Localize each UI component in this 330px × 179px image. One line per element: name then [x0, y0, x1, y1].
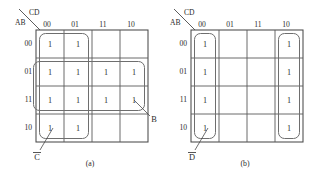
corner-label-cd: CD: [29, 8, 40, 17]
figure-caption-b: (b): [240, 159, 249, 168]
cell-r0c1: 1: [76, 40, 80, 49]
group-label-b: B: [151, 115, 157, 124]
kmap-a-canvas: CD AB 00 01 11 10 00 01 11 10 1 1 1 1 1 …: [0, 0, 165, 179]
column-header-0: 00: [43, 20, 51, 29]
column-header-1: 01: [71, 20, 79, 29]
cell-r1c2: 1: [104, 68, 108, 77]
cell-r1c1: 1: [76, 68, 80, 77]
row-header-2: 11: [25, 95, 33, 104]
row-header-1: 01: [179, 67, 187, 76]
cell-r3c3: 1: [287, 124, 291, 133]
kmap-b-canvas: CD AB 00 01 11 10 00 01 11 10 1 1 1 1 1 …: [165, 0, 330, 179]
cell-r1c0: 1: [203, 68, 207, 77]
row-header-0: 00: [179, 39, 187, 48]
row-header-0: 00: [24, 39, 32, 48]
cell-r1c0: 1: [48, 68, 52, 77]
cell-r2c0: 1: [48, 96, 52, 105]
cell-r2c2: 1: [104, 96, 108, 105]
karnaugh-map-a: CD AB 00 01 11 10 00 01 11 10 1 1 1 1 1 …: [0, 0, 165, 179]
cell-r1c3: 1: [132, 68, 136, 77]
karnaugh-map-b: CD AB 00 01 11 10 00 01 11 10 1 1 1 1 1 …: [165, 0, 330, 179]
group-label-dnot: D: [189, 153, 195, 162]
row-header-1: 01: [24, 67, 32, 76]
corner-label-cd: CD: [184, 8, 195, 17]
corner-label-ab: AB: [15, 18, 26, 27]
cell-r2c0: 1: [203, 96, 207, 105]
cell-r0c0: 1: [203, 40, 207, 49]
row-header-3: 10: [24, 123, 32, 132]
cell-r1c3: 1: [287, 68, 291, 77]
group-label-cnot: C: [34, 153, 40, 162]
cell-r2c1: 1: [76, 96, 80, 105]
cell-r0c3: 1: [287, 40, 291, 49]
cell-r2c3: 1: [287, 96, 291, 105]
figure-caption-a: (a): [86, 159, 95, 168]
column-header-0: 00: [198, 20, 206, 29]
column-header-3: 10: [282, 20, 290, 29]
column-header-3: 10: [127, 20, 135, 29]
cell-r3c1: 1: [76, 124, 80, 133]
column-header-1: 01: [226, 20, 234, 29]
row-header-2: 11: [180, 95, 188, 104]
row-header-3: 10: [179, 123, 187, 132]
cell-r0c0: 1: [48, 40, 52, 49]
cell-r3c0: 1: [203, 124, 207, 133]
column-header-2: 11: [254, 20, 262, 29]
column-header-2: 11: [99, 20, 107, 29]
corner-label-ab: AB: [170, 18, 181, 27]
cell-r3c0: 1: [48, 124, 52, 133]
